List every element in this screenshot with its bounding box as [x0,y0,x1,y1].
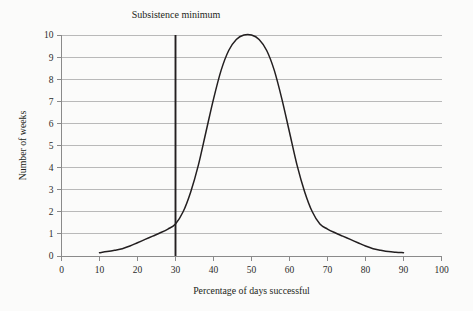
distribution-chart: 012345678910 0102030405060708090100 Subs… [0,0,473,311]
y-tick-label: 1 [49,229,54,239]
x-tick-label: 60 [285,265,295,275]
y-axis-ticks [57,35,62,256]
x-axis-title: Percentage of days successful [193,285,310,296]
x-tick-label: 90 [399,265,409,275]
x-tick-label: 0 [59,265,64,275]
chart-figure: 012345678910 0102030405060708090100 Subs… [0,0,473,311]
subsistence-minimum-label: Subsistence minimum [132,9,221,20]
x-tick-label: 70 [323,265,333,275]
x-tick-label: 20 [133,265,143,275]
y-tick-label: 6 [49,119,54,129]
x-axis-title-text: Percentage of days successful [193,285,310,296]
y-tick-label: 0 [49,251,54,261]
x-tick-label: 80 [361,265,371,275]
x-tick-label: 50 [247,265,257,275]
x-tick-label: 40 [209,265,219,275]
y-tick-labels: 012345678910 [44,30,54,261]
y-tick-label: 10 [44,30,54,40]
annotation-label: Subsistence minimum [132,9,221,20]
x-tick-label: 100 [434,265,449,275]
y-axis-title: Number of weeks [17,110,28,180]
y-tick-label: 4 [49,163,54,173]
y-tick-label: 8 [49,75,54,85]
x-axis-ticks [62,256,442,261]
x-tick-labels: 0102030405060708090100 [59,265,449,275]
y-tick-label: 5 [49,141,54,151]
y-tick-label: 9 [49,53,54,63]
gridlines [62,35,442,256]
y-tick-label: 7 [49,97,54,107]
y-axis-title-text: Number of weeks [17,110,28,180]
y-tick-label: 2 [49,207,54,217]
x-tick-label: 30 [171,265,181,275]
data-curve [100,34,404,252]
x-tick-label: 10 [95,265,105,275]
curve-path [100,34,404,252]
y-tick-label: 3 [49,185,54,195]
